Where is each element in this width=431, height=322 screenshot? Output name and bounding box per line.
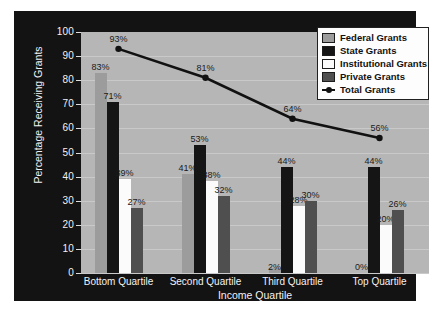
bar: 44% [281, 167, 293, 273]
legend-swatch-icon [322, 33, 335, 43]
legend-swatch-icon [322, 72, 335, 82]
bar: 32% [218, 196, 230, 273]
bar-value-label: 38% [202, 171, 220, 180]
bar-value-label: 2% [268, 263, 281, 272]
x-axis-tick-label: Bottom Quartile [69, 276, 169, 287]
y-axis-tick-label: 90 [34, 51, 74, 61]
bar: 41% [182, 174, 194, 273]
x-axis-title: Income Quartile [81, 289, 429, 301]
bar-value-label: 39% [115, 169, 133, 178]
bar: 53% [194, 145, 206, 273]
bar: 26% [392, 210, 404, 273]
bar-value-label: 44% [364, 157, 382, 166]
gridline [81, 273, 429, 274]
x-axis-tick-label: Third Quartile [243, 276, 343, 287]
gridline [81, 153, 429, 154]
legend-item-label: Institutional Grants [340, 58, 427, 69]
y-axis-title: Percentage Receiving Grants [32, 15, 44, 215]
bar: 30% [305, 201, 317, 273]
legend-swatch-icon [322, 46, 335, 56]
chart-legend: Federal GrantsState GrantsInstitutional … [317, 27, 429, 100]
y-axis-tick-label: 80 [34, 75, 74, 85]
y-axis-tick-label: 20 [34, 220, 74, 230]
chart-figure: Percentage Receiving Grants 010203040506… [0, 0, 431, 322]
total-grants-value-label: 93% [109, 35, 127, 44]
bar: 2% [269, 268, 281, 273]
legend-item-label: Total Grants [340, 84, 395, 95]
y-axis-tick-label: 100 [34, 27, 74, 37]
legend-line-marker-icon [322, 85, 335, 95]
bar: 27% [131, 208, 143, 273]
bar: 28% [293, 206, 305, 273]
bar-value-label: 0% [355, 263, 368, 272]
x-axis-tick-label: Second Quartile [156, 276, 256, 287]
chart-panel: Percentage Receiving Grants 010203040506… [14, 11, 416, 301]
bar-value-label: 32% [214, 186, 232, 195]
bar-value-label: 26% [388, 200, 406, 209]
legend-item: Federal Grants [322, 31, 424, 44]
bar: 71% [107, 102, 119, 273]
bar: 83% [95, 73, 107, 273]
bar-value-label: 30% [301, 191, 319, 200]
legend-swatch-icon [322, 59, 335, 69]
y-axis-tick-label: 70 [34, 99, 74, 109]
total-grants-marker [115, 46, 121, 52]
legend-item-label: Federal Grants [340, 32, 407, 43]
bar-value-label: 53% [190, 135, 208, 144]
total-grants-value-label: 56% [370, 124, 388, 133]
bar-value-label: 83% [91, 63, 109, 72]
legend-item: Private Grants [322, 70, 424, 83]
y-axis-tick-label: 30 [34, 196, 74, 206]
legend-item-label: State Grants [340, 45, 397, 56]
legend-item: State Grants [322, 44, 424, 57]
total-grants-value-label: 64% [283, 105, 301, 114]
bar-value-label: 71% [103, 92, 121, 101]
total-grants-value-label: 81% [196, 64, 214, 73]
y-axis-tick-label: 60 [34, 123, 74, 133]
bar-value-label: 44% [277, 157, 295, 166]
x-axis-tick-label: Top Quartile [330, 276, 430, 287]
y-axis-tick-label: 50 [34, 148, 74, 158]
legend-item-label: Private Grants [340, 71, 405, 82]
y-axis-tick-label: 10 [34, 244, 74, 254]
total-grants-marker [289, 116, 295, 122]
gridline [81, 104, 429, 105]
total-grants-marker [376, 135, 382, 141]
legend-item: Institutional Grants [322, 57, 424, 70]
bar-value-label: 27% [127, 198, 145, 207]
bar: 39% [119, 179, 131, 273]
bar: 38% [206, 181, 218, 273]
bar: 20% [380, 225, 392, 273]
legend-item: Total Grants [322, 83, 424, 96]
y-axis-tick-label: 40 [34, 172, 74, 182]
